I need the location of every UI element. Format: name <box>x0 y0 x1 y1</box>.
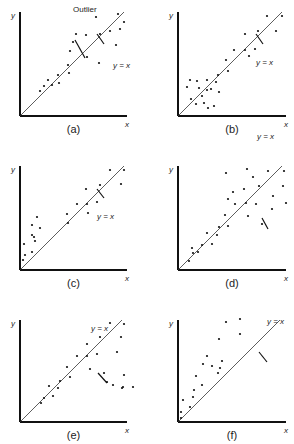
data-point <box>99 184 101 186</box>
data-point <box>247 215 249 217</box>
data-point <box>115 44 117 46</box>
data-point <box>275 30 277 32</box>
data-point <box>234 203 236 205</box>
data-point <box>211 243 213 245</box>
panel-c: yx(c)y = x <box>10 165 130 289</box>
data-point <box>48 385 50 387</box>
data-point <box>201 244 203 246</box>
panel-f: yx(f)y = x <box>168 317 289 441</box>
data-point <box>216 234 218 236</box>
data-point <box>31 251 33 253</box>
y-axis-label: y <box>168 165 174 174</box>
data-point <box>96 201 98 203</box>
data-point <box>47 79 49 81</box>
data-point <box>266 15 268 17</box>
line-annotation: y = x <box>90 324 109 333</box>
y-axis-label: y <box>10 319 16 328</box>
data-point <box>31 234 33 236</box>
data-point <box>221 360 223 362</box>
data-point <box>76 203 78 205</box>
data-point <box>213 105 215 107</box>
y-axis-label: y <box>168 11 174 20</box>
data-point <box>225 172 227 174</box>
data-point <box>117 13 119 15</box>
data-point <box>189 79 191 81</box>
data-point <box>225 321 227 323</box>
data-point <box>33 236 35 238</box>
data-point <box>248 55 250 57</box>
data-point <box>255 203 257 205</box>
data-point <box>103 372 105 374</box>
panel-caption: (e) <box>67 429 80 441</box>
annotation-arrow-icon <box>75 40 85 58</box>
data-point <box>207 107 209 109</box>
data-point <box>86 203 88 205</box>
data-point <box>206 79 208 81</box>
data-point <box>203 102 205 104</box>
data-point <box>57 74 59 76</box>
data-point <box>206 232 208 234</box>
data-point <box>202 363 204 365</box>
data-point <box>57 387 59 389</box>
data-point <box>201 384 203 386</box>
data-point <box>43 85 45 87</box>
data-point <box>239 318 241 320</box>
panel-b: yx(b)y = x <box>168 11 289 135</box>
data-point <box>217 74 219 76</box>
data-point <box>198 87 200 89</box>
data-point <box>182 399 184 401</box>
data-point <box>66 366 68 368</box>
data-point <box>245 202 247 204</box>
data-point <box>189 406 191 408</box>
data-point <box>109 322 111 324</box>
outlier-annotation: Outlier <box>73 5 97 14</box>
panel-caption: (a) <box>67 123 80 135</box>
panel-caption: (f) <box>227 429 237 441</box>
data-point <box>132 386 134 388</box>
data-point <box>197 251 199 253</box>
data-point <box>233 49 235 51</box>
data-point <box>201 95 203 97</box>
panel-caption: (d) <box>225 277 238 289</box>
data-point <box>43 397 45 399</box>
y-axis-label: y <box>10 11 16 20</box>
data-point <box>239 333 241 335</box>
data-point <box>119 28 121 30</box>
data-point <box>52 395 54 397</box>
data-point <box>195 103 197 105</box>
data-point <box>95 16 97 18</box>
data-point <box>96 353 98 355</box>
scatter-grid: yx(a)y = xOutlieryx(b)y = xyx(c)y = xyx(… <box>0 0 294 444</box>
data-point <box>188 260 190 262</box>
data-point <box>244 33 246 35</box>
x-axis-label: x <box>124 120 130 129</box>
reference-line <box>20 12 124 116</box>
data-point <box>210 88 212 90</box>
data-point <box>206 89 208 91</box>
data-point <box>109 30 111 32</box>
data-point <box>89 368 91 370</box>
data-point <box>59 380 61 382</box>
data-point <box>195 375 197 377</box>
data-point <box>217 372 219 374</box>
data-point <box>51 84 53 86</box>
data-point <box>261 223 263 225</box>
data-point <box>227 70 229 72</box>
data-point <box>180 417 182 419</box>
data-point <box>98 62 100 64</box>
data-point <box>227 198 229 200</box>
data-point <box>190 98 192 100</box>
x-axis-label: x <box>283 120 289 129</box>
data-point <box>254 48 256 50</box>
data-point <box>85 34 87 36</box>
y-axis-label: y <box>10 165 16 174</box>
data-point <box>215 81 217 83</box>
data-point <box>58 82 60 84</box>
line-annotation: y = x <box>256 132 275 141</box>
data-point <box>34 240 36 242</box>
data-point <box>120 336 122 338</box>
data-point <box>219 367 221 369</box>
data-point <box>99 336 101 338</box>
data-point <box>283 170 285 172</box>
data-point <box>76 355 78 357</box>
